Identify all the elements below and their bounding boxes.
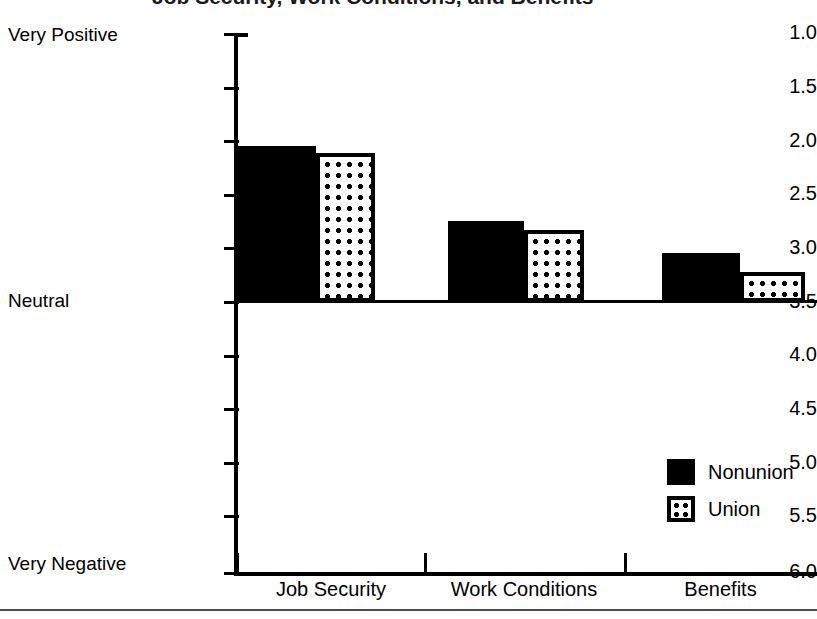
x-category-tick	[236, 553, 239, 575]
y-tick-label: 2.0	[589, 130, 817, 150]
y-tick-label: 2.5	[589, 183, 817, 203]
y-tick-label: 1.0	[589, 22, 817, 42]
x-category-tick	[624, 553, 627, 575]
legend-swatch-union-icon	[667, 496, 695, 522]
y-tick-mark	[224, 87, 239, 90]
y-axis-line	[234, 33, 238, 576]
y-tick-mark	[224, 194, 239, 197]
bar-benefits-union	[740, 272, 805, 302]
plot-area: 1.0 1.5 2.0 2.5 3.0 3.5 4.0 4.5 5.0 5.5 …	[0, 0, 817, 619]
x-category-label-work-conditions: Work Conditions	[424, 578, 624, 601]
legend-item-nonunion: Nonunion	[667, 455, 817, 489]
y-tick-mark	[224, 408, 239, 411]
y-tick-mark	[224, 301, 239, 304]
bar-job-security-union	[316, 153, 375, 302]
y-tick-mark	[224, 355, 239, 358]
bar-work-conditions-nonunion	[448, 221, 524, 302]
y-tick-label: 1.5	[589, 76, 817, 96]
x-category-label-job-security: Job Security	[236, 578, 426, 601]
y-tick-mark	[224, 515, 239, 518]
y-tick-mark	[224, 33, 239, 36]
bar-benefits-nonunion	[662, 253, 740, 302]
figure-chart: Job Security, Work Conditions, and Benef…	[0, 0, 817, 619]
legend-label-nonunion: Nonunion	[708, 461, 794, 484]
legend-label-union: Union	[708, 498, 760, 521]
x-category-label-benefits: Benefits	[624, 578, 817, 601]
y-tick-mark	[224, 247, 239, 250]
chart-legend: Nonunion Union	[667, 455, 817, 529]
y-tick-label: 4.0	[589, 344, 817, 364]
page-bottom-rule	[0, 609, 817, 611]
y-tick-label: 4.5	[589, 398, 817, 418]
x-category-tick	[424, 553, 427, 575]
bar-job-security-nonunion	[238, 146, 316, 302]
legend-item-union: Union	[667, 492, 817, 526]
legend-swatch-nonunion-icon	[667, 459, 695, 485]
y-tick-mark	[224, 462, 239, 465]
y-tick-mark	[224, 140, 239, 143]
bar-work-conditions-union	[524, 230, 584, 302]
